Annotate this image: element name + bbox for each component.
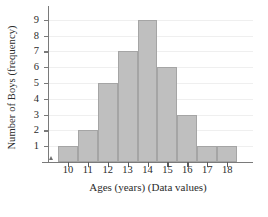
y-tick-label: 7 — [23, 46, 39, 56]
y-tick-label: 6 — [23, 62, 39, 72]
x-tick-label: 14 — [137, 164, 159, 176]
x-tick-label: 15 — [156, 164, 178, 176]
histogram-bar — [157, 67, 177, 162]
y-tick-label: 3 — [23, 110, 39, 120]
histogram-bar — [58, 146, 78, 162]
y-tick-mark — [44, 36, 49, 37]
y-axis-tick-labels: 123456789 — [22, 12, 42, 162]
y-tick-mark — [44, 51, 49, 52]
x-tick-label: 17 — [196, 164, 218, 176]
origin-arrow-icon — [49, 156, 53, 160]
x-axis-title: Ages (years) (Data values) — [34, 181, 262, 193]
y-tick-mark — [44, 67, 49, 68]
y-tick-label: 4 — [23, 94, 39, 104]
y-tick-mark — [44, 146, 49, 147]
histogram-bar — [197, 146, 217, 162]
histogram-figure: Number of Boys (frequency) 123456789 101… — [0, 0, 268, 217]
y-tick-mark — [44, 20, 49, 21]
y-tick-label: 9 — [23, 15, 39, 25]
y-tick-mark — [44, 130, 49, 131]
histogram-bar — [118, 51, 138, 162]
x-tick-label: 12 — [97, 164, 119, 176]
x-tick-label: 10 — [57, 164, 79, 176]
histogram-bar — [98, 83, 118, 162]
plot-area — [48, 12, 253, 162]
y-axis-title: Number of Boys (frequency) — [0, 0, 22, 175]
y-tick-label: 8 — [23, 31, 39, 41]
y-tick-label: 1 — [23, 141, 39, 151]
x-tick-label: 18 — [216, 164, 238, 176]
histogram-bar — [217, 146, 237, 162]
y-axis-title-text: Number of Boys (frequency) — [6, 25, 17, 149]
y-tick-mark — [44, 99, 49, 100]
y-axis-line — [48, 6, 49, 163]
x-axis-tick-labels: 101112131415161718 — [48, 164, 253, 180]
y-tick-mark — [44, 115, 49, 116]
histogram-bar — [138, 20, 158, 162]
histogram-bar — [177, 115, 197, 162]
histogram-bar — [78, 130, 98, 162]
y-tick-label: 2 — [23, 125, 39, 135]
x-tick-label: 11 — [77, 164, 99, 176]
y-tick-label: 5 — [23, 78, 39, 88]
y-tick-mark — [44, 83, 49, 84]
x-tick-label: 13 — [117, 164, 139, 176]
x-tick-label: 16 — [176, 164, 198, 176]
